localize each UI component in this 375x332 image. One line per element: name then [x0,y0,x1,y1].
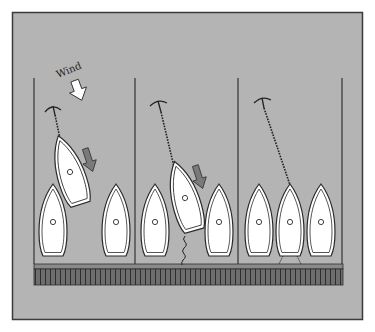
mooring-diagram: Wind [0,0,375,332]
dock [34,264,343,285]
